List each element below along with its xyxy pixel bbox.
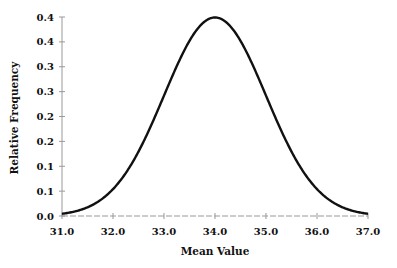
x-tick-label: 37.0 xyxy=(356,226,380,237)
y-tick-label: 0.4 xyxy=(37,12,54,23)
x-tick-label: 34.0 xyxy=(203,226,227,237)
x-tick-label: 35.0 xyxy=(254,226,278,237)
distribution-curve xyxy=(62,18,368,214)
y-tick-label: 0.1 xyxy=(37,186,54,197)
x-tick-label: 31.0 xyxy=(50,226,74,237)
y-tick-label: 0.3 xyxy=(37,61,54,72)
y-axis-title: Relative Frequency xyxy=(8,61,20,175)
x-tick-label: 33.0 xyxy=(152,226,176,237)
y-tick-label: 0.1 xyxy=(37,161,54,172)
y-tick-label: 0.3 xyxy=(37,86,54,97)
y-tick-label: 0.4 xyxy=(37,36,54,47)
x-tick-label: 32.0 xyxy=(101,226,125,237)
y-axis: 0.00.10.10.20.20.30.30.40.4 xyxy=(37,12,65,222)
x-axis-title: Mean Value xyxy=(181,245,250,257)
normal-distribution-chart: 0.00.10.10.20.20.30.30.40.4 31.032.033.0… xyxy=(0,0,397,268)
y-tick-label: 0.2 xyxy=(37,136,54,147)
y-tick-label: 0.0 xyxy=(37,211,54,222)
x-axis: 31.032.033.034.035.036.037.0 xyxy=(50,213,380,237)
x-tick-label: 36.0 xyxy=(305,226,329,237)
y-tick-label: 0.2 xyxy=(37,111,54,122)
